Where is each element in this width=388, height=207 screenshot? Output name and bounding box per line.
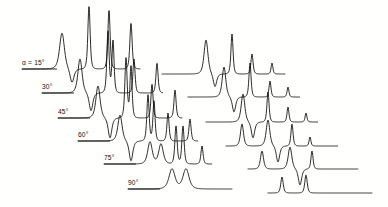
spectrum-trace (128, 169, 232, 189)
spectra-canvas: α = 15°30°45°60°75°90° (0, 0, 388, 207)
angle-label-15: α = 15° (22, 59, 45, 66)
spectrum-trace (268, 175, 372, 193)
spectrum-trace (78, 95, 198, 161)
angle-label-90: 90° (128, 179, 139, 186)
spectrum-trace (188, 63, 300, 112)
traces-layer (22, 7, 372, 193)
spectrum-trace (104, 126, 212, 164)
angle-label-60: 60° (78, 131, 89, 138)
spectra-figure: α = 15°30°45°60°75°90° (0, 0, 388, 207)
spectrum-trace (206, 92, 318, 138)
spectrum-trace (226, 120, 338, 162)
spectrum-trace (58, 58, 182, 138)
angle-label-30: 30° (42, 83, 53, 90)
angle-label-45: 45° (58, 108, 69, 115)
angle-label-75: 75° (104, 154, 115, 161)
spectrum-trace (248, 147, 358, 185)
spectrum-trace (162, 34, 285, 86)
spectrum-trace (22, 7, 140, 83)
